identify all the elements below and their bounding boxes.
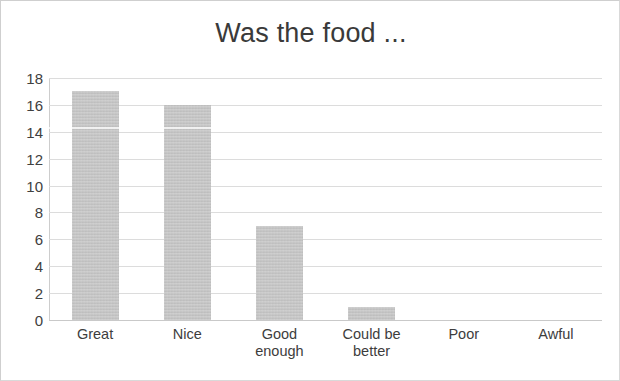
bar [256, 226, 303, 320]
bar-series [49, 78, 602, 320]
x-axis-tick-label: Goodenough [233, 326, 325, 360]
y-axis-tick-label: 18 [3, 71, 43, 86]
x-axis-tick-label: Could bebetter [326, 326, 418, 360]
x-axis-tick-label-line: enough [233, 343, 325, 360]
gridline [49, 320, 602, 321]
x-axis-tick-label-line: Awful [510, 326, 602, 343]
y-axis-tick-label: 12 [3, 151, 43, 166]
y-axis-tick-label: 2 [3, 286, 43, 301]
x-axis-tick-label: Poor [418, 326, 510, 343]
x-axis-tick-label: Great [49, 326, 141, 343]
y-axis-tick-labels: 181614121086420 [1, 78, 43, 320]
bar [72, 91, 119, 320]
x-axis-tick-label-line: better [326, 343, 418, 360]
scan-artifact-streak [49, 127, 602, 129]
x-axis-tick-label: Awful [510, 326, 602, 343]
x-axis-tick-label-line: Poor [418, 326, 510, 343]
bar [348, 307, 395, 320]
y-axis-tick-label: 4 [3, 259, 43, 274]
x-axis-tick-label: Nice [141, 326, 233, 343]
x-axis-tick-label-line: Great [49, 326, 141, 343]
y-axis-tick-label: 14 [3, 124, 43, 139]
x-axis-tick-label-line: Could be [326, 326, 418, 343]
x-axis-tick-label-line: Nice [141, 326, 233, 343]
y-axis-tick-label: 6 [3, 232, 43, 247]
y-axis-tick-label: 16 [3, 97, 43, 112]
y-axis-tick-label: 8 [3, 205, 43, 220]
x-axis-tick-labels: GreatNiceGoodenoughCould bebetterPoorAwf… [49, 326, 602, 372]
chart-title: Was the food ... [1, 18, 620, 49]
x-axis-tick-label-line: Good [233, 326, 325, 343]
y-axis-tick-label: 10 [3, 178, 43, 193]
chart-container: Was the food ... 181614121086420 GreatNi… [0, 0, 620, 381]
y-axis-tick-label: 0 [3, 313, 43, 328]
bar [164, 105, 211, 320]
